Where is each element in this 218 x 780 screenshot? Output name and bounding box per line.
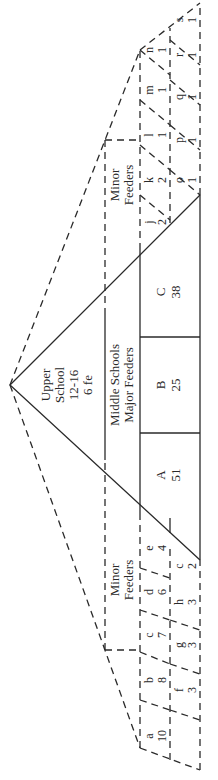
feeder-value: 51 [168, 469, 183, 482]
feeder-value: 6 [155, 589, 169, 595]
feeder-letter: o [172, 177, 186, 183]
feeder-letter: r [172, 53, 186, 57]
feeder-letter: p [172, 137, 186, 143]
minor-feeder-g: g 3 [172, 642, 199, 648]
minor-feeders-left-label: Minor Feeders [107, 560, 136, 600]
feeder-value: 1 [155, 132, 169, 138]
feeder-value: 2 [155, 177, 169, 183]
feeder-value: 10 [155, 730, 169, 742]
minor-feeders-label-line-2: Feeders [121, 560, 136, 600]
feeder-value: 1 [185, 17, 199, 23]
feeder-letter: d [142, 589, 156, 595]
upper-school-line-3: 12-16 [66, 369, 81, 400]
feeder-letter: c [172, 563, 186, 568]
minor-feeder-a: a 10 [142, 730, 169, 742]
minor-feeder-p: p 1 [172, 137, 199, 143]
feeder-letter: j [142, 220, 156, 224]
minor-feeder-i: c 2 [172, 563, 199, 569]
feeder-letter: l [142, 133, 156, 137]
feeder-value: 3 [185, 642, 199, 648]
minor-feeder-m: m 1 [142, 85, 169, 95]
minor-feeder-d: d 6 [142, 589, 169, 595]
minor-feeders-right-frame [140, 3, 200, 250]
middle-schools-line-2: Major Feeders [121, 347, 136, 422]
feeder-value: 8 [155, 677, 169, 683]
feeder-letter: C [153, 288, 168, 297]
upper-school-line-2: School [52, 367, 67, 404]
minor-feeder-r: r 1 [172, 52, 199, 58]
minor-feeder-n: n 1 [142, 47, 169, 53]
feeder-value: 1 [185, 52, 199, 58]
feeder-letter: f [172, 688, 186, 692]
middle-schools-label: Middle Schools Major Feeders [107, 344, 136, 426]
feeder-value: 38 [168, 286, 183, 299]
feeder-value: 2 [155, 219, 169, 225]
school-pyramid-diagram: Upper School 12-16 6 fe Middle Schools M… [0, 0, 218, 780]
minor-feeders-label-line-1: Minor [107, 563, 122, 596]
feeder-value: 3 [185, 687, 199, 693]
feeder-value: 1 [155, 47, 169, 53]
minor-feeder-c: c 7 [142, 632, 169, 638]
feeder-value: 1 [185, 177, 199, 183]
major-feeder-b: B 25 [153, 379, 183, 392]
feeder-letter: q [172, 94, 186, 100]
feeder-value: 2 [185, 563, 199, 569]
minor-feeders-right-label: Minor Feeders [107, 165, 136, 205]
feeder-letter: s [172, 17, 186, 22]
feeder-letter: c [142, 632, 156, 637]
minor-feeder-q: q 1 [172, 94, 199, 100]
minor-feeder-b: b 8 [142, 677, 169, 683]
major-feeder-a: A 51 [153, 469, 183, 482]
feeder-letter: n [142, 47, 156, 53]
minor-feeder-e: e 4 [142, 545, 169, 551]
middle-schools-line-1: Middle Schools [107, 344, 122, 426]
feeder-value: 7 [155, 632, 169, 638]
minor-feeder-f: f 3 [172, 687, 199, 693]
minor-feeders-label-line-1: Minor [107, 168, 122, 201]
feeder-letter: k [142, 177, 156, 183]
upper-school-label: Upper School 12-16 6 fe [38, 367, 95, 404]
feeder-letter: e [142, 545, 156, 550]
feeder-letter: m [142, 85, 156, 95]
upper-school-line-1: Upper [38, 368, 53, 401]
feeder-letter: h [172, 599, 186, 605]
minor-feeder-l: l 1 [142, 132, 169, 138]
feeder-value: 25 [168, 379, 183, 392]
feeder-letter: b [142, 677, 156, 683]
feeder-letter: g [172, 642, 186, 648]
feeder-value: 4 [155, 545, 169, 551]
feeder-letter: A [153, 470, 168, 480]
minor-feeder-j: j 2 [142, 219, 169, 225]
feeder-letter: a [142, 733, 156, 739]
upper-school-line-4: 6 fe [80, 375, 95, 395]
minor-feeder-k: k 2 [142, 177, 169, 183]
feeder-value: 1 [155, 87, 169, 93]
minor-feeders-label-line-2: Feeders [121, 165, 136, 205]
feeder-value: 1 [185, 94, 199, 100]
minor-feeder-s: s 1 [172, 17, 199, 23]
minor-feeder-h: h 3 [172, 599, 199, 605]
feeder-value: 3 [185, 599, 199, 605]
feeder-letter: B [153, 380, 168, 389]
major-feeder-c: C 38 [153, 286, 183, 299]
feeder-value: 1 [185, 137, 199, 143]
minor-feeder-o: o 1 [172, 177, 199, 183]
